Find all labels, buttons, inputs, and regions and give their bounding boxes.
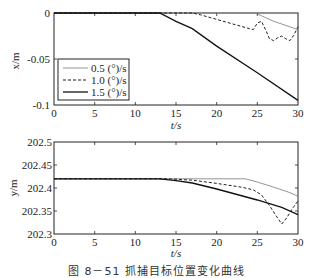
top-ytick-2: -0.1 [33,99,50,111]
bottom-xtick-5: 25 [252,236,264,248]
top-xlabel: t/s [171,119,181,131]
bottom-curve-0-5 [54,179,298,197]
figure-caption: 图 8－51 抓捕目标位置变化曲线 [0,262,313,278]
top-xtick-1: 5 [92,107,98,119]
top-plot: 0 -0.05 -0.1 0 5 10 15 20 25 30 t/s x/m … [9,7,304,131]
top-ytick-1: -0.05 [27,53,50,65]
bottom-x-ticks [95,142,258,234]
bottom-xtick-4: 20 [211,236,223,248]
legend: 0.5 (°)/s 1.0 (°)/s 1.5 (°)/s [58,59,129,100]
bottom-xtick-1: 5 [92,236,98,248]
bottom-ytick-1: 202.45 [22,159,53,171]
top-xtick-0: 0 [51,107,57,119]
bottom-plot: 202.5 202.45 202.4 202.35 202.3 0 5 10 1… [7,136,304,259]
legend-label-1-5: 1.5 (°)/s [91,86,127,99]
top-xtick-3: 15 [171,107,183,119]
top-ytick-0: 0 [45,7,51,19]
top-curve-1-0 [54,13,298,41]
bottom-plot-frame [54,142,298,234]
top-ylabel: x/m [9,52,21,70]
bottom-xtick-0: 0 [51,236,57,248]
bottom-xlabel: t/s [171,247,181,259]
bottom-ytick-3: 202.35 [22,205,53,217]
top-xtick-2: 10 [130,107,142,119]
bottom-curve-1-5 [54,179,298,215]
bottom-y-ticks [54,165,298,211]
bottom-ytick-4: 202.3 [27,228,52,240]
bottom-xtick-2: 10 [130,236,142,248]
top-xtick-4: 20 [211,107,223,119]
bottom-xtick-6: 30 [293,236,305,248]
bottom-ytick-0: 202.5 [27,136,52,148]
top-xtick-6: 30 [293,107,305,119]
top-xtick-5: 25 [252,107,264,119]
bottom-ytick-2: 202.4 [27,182,52,194]
bottom-ylabel: y/m [7,179,19,197]
